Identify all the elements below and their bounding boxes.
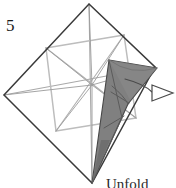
figure-background [0,0,176,188]
origami-diagram-svg [0,0,176,188]
origami-step-figure: 5 Unfold [0,0,176,188]
step-caption: Unfold [106,176,149,188]
step-number-label: 5 [6,16,15,36]
